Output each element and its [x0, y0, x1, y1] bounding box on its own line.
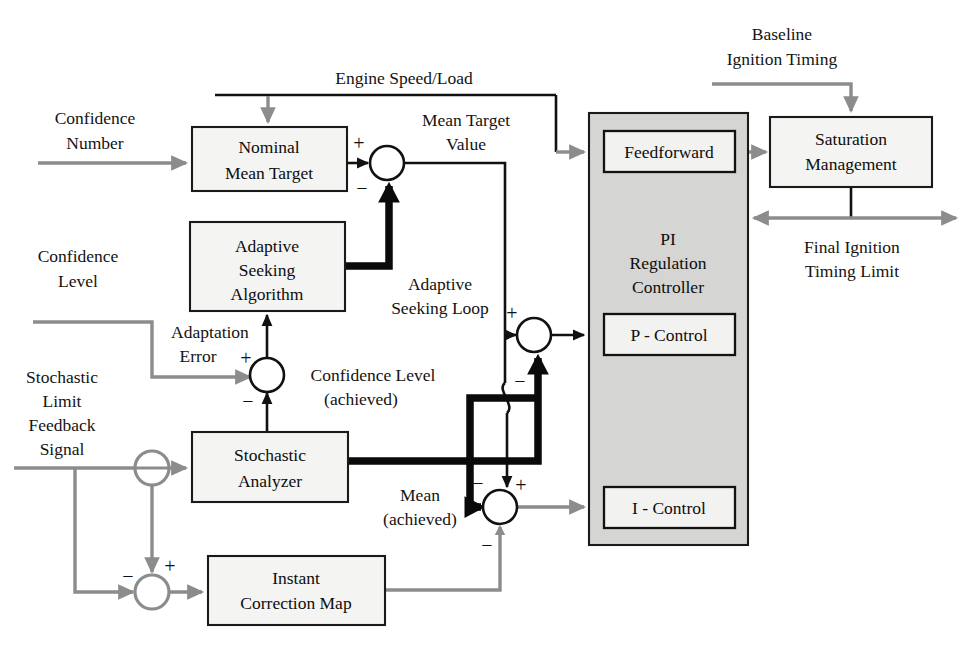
label-pi-line3: Controller: [632, 277, 704, 297]
label-adaptive-line1: Adaptive: [235, 236, 299, 256]
block-saturation-management[interactable]: [770, 117, 932, 187]
sign-i-junction-minus2: −: [481, 534, 492, 556]
sign-i-junction-plus: +: [515, 474, 526, 496]
block-instant-correction-map[interactable]: [208, 556, 385, 625]
label-mean-target-value-line2: Value: [446, 134, 486, 154]
label-slfs-line4: Signal: [40, 439, 85, 459]
label-stochastic-line1: Stochastic: [234, 445, 306, 465]
sign-p-junction-minus: −: [514, 370, 525, 392]
label-confidence-level-line1: Confidence: [38, 246, 119, 266]
label-adaptation-error-line1: Adaptation: [171, 322, 249, 342]
label-p-control: P - Control: [630, 325, 707, 345]
block-diagram-canvas: Nominal Mean Target Adaptive Seeking Alg…: [0, 0, 973, 656]
label-confidence-number-line2: Number: [66, 133, 124, 153]
sign-instant-junction-plus: +: [164, 555, 175, 577]
confidence-level-junction[interactable]: [250, 358, 284, 392]
label-instant-line1: Instant: [272, 568, 320, 588]
sign-p-junction-plus: +: [506, 302, 517, 324]
label-adaptive-line2: Seeking: [239, 260, 296, 280]
label-final-ignition-line1: Final Ignition: [804, 237, 900, 257]
sign-mean-junction-plus: +: [353, 132, 364, 154]
instant-correction-junction[interactable]: [135, 575, 169, 609]
sign-i-junction-minus: −: [472, 472, 483, 494]
label-saturation-line2: Management: [805, 154, 896, 174]
label-engine-speed-load: Engine Speed/Load: [335, 68, 473, 88]
sign-mean-junction-minus: −: [356, 177, 367, 199]
sign-confidence-junction-minus: −: [242, 390, 253, 412]
label-confidence-level-line2: Level: [58, 271, 98, 291]
label-adaptive-line3: Algorithm: [231, 284, 304, 304]
label-pi-line1: PI: [660, 229, 676, 249]
i-control-junction[interactable]: [483, 490, 517, 524]
label-slfs-line2: Limit: [43, 391, 82, 411]
mean-target-junction[interactable]: [370, 146, 404, 180]
sign-confidence-junction-plus: +: [240, 347, 251, 369]
label-slfs-line1: Stochastic: [26, 367, 98, 387]
label-baseline-ignition-line2: Ignition Timing: [727, 49, 838, 69]
label-adaptive-seeking-loop-line1: Adaptive: [408, 274, 472, 294]
label-saturation-line1: Saturation: [815, 129, 887, 149]
label-final-ignition-line2: Timing Limit: [805, 261, 899, 281]
label-confidence-level-achieved-line2: (achieved): [324, 389, 398, 409]
label-confidence-number-line1: Confidence: [55, 108, 136, 128]
label-confidence-level-achieved-line1: Confidence Level: [311, 365, 436, 385]
label-mean-achieved-line1: Mean: [400, 485, 440, 505]
label-nominal-line2: Mean Target: [225, 163, 313, 183]
label-stochastic-line2: Analyzer: [238, 471, 302, 491]
label-nominal-line1: Nominal: [238, 137, 299, 157]
block-stochastic-analyzer[interactable]: [192, 432, 348, 502]
label-feedforward: Feedforward: [624, 142, 714, 162]
sign-instant-junction-minus: −: [122, 565, 133, 587]
label-pi-line2: Regulation: [630, 253, 707, 273]
label-slfs-line3: Feedback: [28, 415, 95, 435]
label-adaptation-error-line2: Error: [180, 346, 217, 366]
label-mean-target-value-line1: Mean Target: [422, 110, 510, 130]
label-baseline-ignition-line1: Baseline: [752, 24, 812, 44]
label-instant-line2: Correction Map: [240, 593, 352, 613]
diagram-svg: Nominal Mean Target Adaptive Seeking Alg…: [0, 0, 973, 656]
label-i-control: I - Control: [632, 498, 706, 518]
wire-baseline-ignition-timing: [712, 84, 851, 111]
p-control-junction[interactable]: [517, 318, 551, 352]
label-mean-achieved-line2: (achieved): [383, 509, 457, 529]
label-adaptive-seeking-loop-line2: Seeking Loop: [391, 298, 489, 318]
